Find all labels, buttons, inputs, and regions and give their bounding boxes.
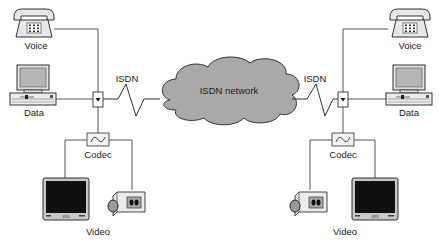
codec-icon: [87, 133, 109, 146]
video-monitor-icon: [352, 178, 398, 220]
isdn-diagram: XXX: [0, 0, 439, 249]
telephone-icon: [14, 9, 54, 37]
video-monitor-icon: [43, 178, 89, 220]
right-isdn-label: ISDN: [304, 73, 327, 84]
video-camera-icon: [108, 192, 145, 216]
computer-icon: [386, 65, 432, 105]
computer-icon: [10, 65, 56, 105]
left-isdn-link: [103, 84, 160, 116]
left-isdn-label: ISDN: [116, 73, 139, 84]
codec-icon: [332, 133, 354, 146]
right-wiring: [310, 29, 388, 190]
left-data-label: Data: [24, 107, 44, 118]
isdn-network-label: ISDN network: [200, 85, 259, 96]
junction-box-icon: [93, 92, 103, 107]
telephone-icon: [390, 9, 430, 37]
right-data-label: Data: [399, 107, 419, 118]
right-video-label: Video: [333, 226, 357, 237]
right-isdn-link: [292, 84, 339, 116]
right-voice-label: Voice: [398, 40, 421, 51]
video-camera-icon: [290, 192, 327, 216]
left-video-label: Video: [86, 226, 110, 237]
right-codec-label: Codec: [329, 149, 356, 160]
left-codec-label: Codec: [84, 149, 111, 160]
left-voice-label: Voice: [24, 40, 47, 51]
left-wiring: [54, 29, 132, 190]
junction-box-icon: [338, 92, 348, 107]
